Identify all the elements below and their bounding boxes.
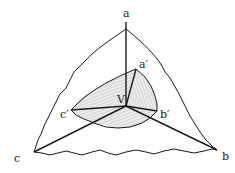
outer-edge-c-b xyxy=(34,149,217,155)
label-a: a xyxy=(123,7,130,20)
label-vertex-V: V xyxy=(116,93,126,106)
trihedral-angle-diagram: a a′ V b′ c′ c b xyxy=(0,0,235,173)
edge-V-b xyxy=(126,106,217,150)
label-c: c xyxy=(14,152,20,165)
label-b: b xyxy=(222,150,229,163)
label-a-prime: a′ xyxy=(139,58,149,71)
label-c-prime: c′ xyxy=(60,108,69,121)
label-b-prime: b′ xyxy=(160,108,170,121)
